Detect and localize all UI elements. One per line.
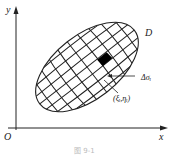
coordinate-axes — [8, 10, 164, 130]
origin-label: O — [4, 131, 11, 142]
figure-caption: 图 9-1 — [74, 147, 95, 155]
double-integral-region-diagram: y x O D Δσᵢ (ξᵢ,ηᵢ) 图 9-1 — [0, 0, 171, 156]
area-element-label: Δσᵢ — [140, 73, 151, 82]
sample-point-label: (ξᵢ,ηᵢ) — [113, 94, 131, 103]
y-axis-label: y — [5, 4, 11, 15]
y-axis-arrow-icon — [14, 6, 19, 14]
x-axis-arrow-icon — [160, 126, 168, 131]
region-label: D — [144, 27, 153, 38]
x-axis-label: x — [158, 131, 164, 142]
partition-grid — [7, 0, 167, 142]
region-d — [7, 0, 167, 142]
